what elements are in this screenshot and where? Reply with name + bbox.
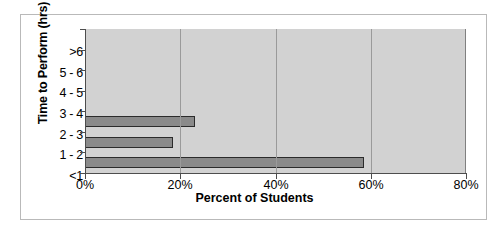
x-axis-tick-label: 80% (436, 178, 496, 192)
bar-2-3 (85, 116, 195, 127)
y-axis-tickmark (80, 70, 85, 71)
y-axis-tickmark (80, 50, 85, 51)
y-axis-tick-label: 4 - 5 (29, 86, 83, 100)
bar-chart-figure: Time to Perform (hrs) <11 - 22 - 33 - 44… (20, 14, 487, 220)
y-axis-tick-label: 3 - 4 (29, 107, 83, 121)
x-gridline (180, 29, 181, 173)
y-axis-tick-label: 5 - 6 (29, 66, 83, 80)
x-axis-tick-label: 40% (246, 178, 306, 192)
x-gridline (371, 29, 372, 173)
plot-area (85, 29, 466, 173)
y-axis-tickmark (80, 29, 85, 30)
y-axis-tickmark (80, 111, 85, 112)
x-axis-tick-label: 0% (55, 178, 115, 192)
y-axis-line (85, 29, 86, 174)
bar-<1 (85, 157, 364, 168)
y-axis-tick-labels: <11 - 22 - 33 - 44 - 55 - 6>6 (29, 29, 83, 173)
y-axis-tickmark (80, 132, 85, 133)
x-axis-tick-label: 20% (150, 178, 210, 192)
y-axis-tickmark (80, 91, 85, 92)
y-axis-tick-label: >6 (29, 45, 83, 59)
x-axis-title: Percent of Students (21, 191, 488, 205)
x-axis-tick-label: 60% (341, 178, 401, 192)
bar-1-2 (85, 137, 173, 148)
y-axis-tickmark (80, 152, 85, 153)
y-axis-tick-label: 2 - 3 (29, 128, 83, 142)
y-axis-tick-label: 1 - 2 (29, 148, 83, 162)
x-gridline (276, 29, 277, 173)
